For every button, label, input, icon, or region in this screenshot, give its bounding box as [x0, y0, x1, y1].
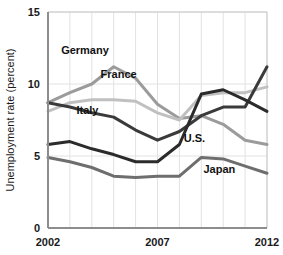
y-tick-label: 5 — [34, 150, 40, 162]
x-tick-label: 2002 — [36, 236, 60, 248]
unemployment-rate-line-chart: 051015 200220072012 GermanyFranceItalyU.… — [0, 0, 283, 255]
chart-container: 051015 200220072012 GermanyFranceItalyU.… — [0, 0, 283, 255]
x-tick-label: 2012 — [255, 236, 279, 248]
y-tick-label: 10 — [28, 78, 40, 90]
series-label-italy: Italy — [76, 104, 99, 116]
series-label-japan: Japan — [203, 163, 235, 175]
y-axis-title: Unemployment rate (percent) — [4, 48, 16, 191]
series-label-us: U.S. — [184, 132, 205, 144]
x-tick-label: 2007 — [145, 236, 169, 248]
y-tick-label: 15 — [28, 6, 40, 18]
y-tick-label: 0 — [34, 222, 40, 234]
series-label-germany: Germany — [61, 44, 110, 56]
series-label-france: France — [101, 68, 137, 80]
